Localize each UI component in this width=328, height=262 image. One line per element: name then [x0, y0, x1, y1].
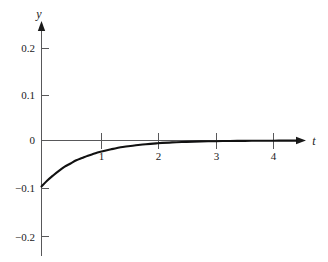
y-tick-label-neg0.1: −0.1 [15, 182, 35, 194]
x-tick-label-2: 2 [156, 150, 162, 162]
figure-background [0, 0, 328, 262]
y-tick-label-0.1: 0.1 [21, 89, 35, 101]
y-tick-label-0: 0 [30, 134, 36, 146]
plot-figure: 0.2 0.1 0 −0.1 −0.2 1 2 3 4 y t [0, 0, 328, 262]
y-tick-label-neg0.2: −0.2 [15, 231, 35, 243]
x-tick-label-4: 4 [271, 150, 277, 162]
x-tick-label-3: 3 [214, 150, 220, 162]
y-tick-label-0.2: 0.2 [21, 42, 35, 54]
y-axis-label: y [35, 7, 42, 21]
